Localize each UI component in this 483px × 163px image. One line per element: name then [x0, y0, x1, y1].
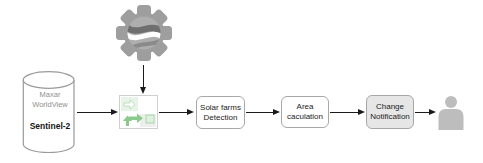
node-label-line1: Solar farms [200, 103, 241, 113]
pipeline-diagram: Maxar WorldView Sentinel-2 [0, 0, 483, 163]
node-area-calculation: Area caculation [281, 96, 329, 128]
node-label-line2: Detection [204, 113, 238, 123]
node-label-line1: Area [297, 102, 314, 112]
datasource-label: Maxar WorldView [24, 90, 76, 109]
arrow-change-to-user [415, 112, 429, 113]
node-solar-farms-detection: Solar farms Detection [196, 96, 245, 129]
gear-globe-icon [113, 3, 175, 63]
node-label-line1: Change [376, 102, 404, 112]
arrow-area-to-change [330, 112, 358, 113]
datasource-label-bold: Sentinel-2 [24, 121, 76, 131]
user-icon [438, 95, 464, 130]
datasource-label-line1: Maxar [24, 90, 76, 100]
arrow-preprocess-to-detection [159, 112, 187, 113]
arrow-detection-to-area [246, 112, 273, 113]
node-label-line2: caculation [287, 112, 323, 122]
node-change-notification: Change Notification [366, 95, 414, 129]
arrow-engine-to-preprocess [143, 65, 144, 87]
datasource-label-line2: WorldView [24, 100, 76, 110]
green-arrows-grid-icon [119, 95, 158, 129]
arrow-source-to-preprocess [77, 112, 111, 113]
node-label-line2: Notification [370, 112, 410, 122]
database-cylinder-icon [22, 70, 78, 156]
